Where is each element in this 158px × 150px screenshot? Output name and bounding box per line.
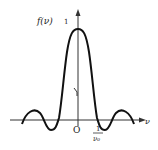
marker-glyph	[74, 88, 77, 96]
sinc-plot: f(ν) 1 ν O 1 ν₀	[0, 0, 158, 150]
tick-denominator: ν₀	[93, 135, 100, 143]
origin-label: O	[73, 125, 80, 135]
x-axis-label: ν	[145, 117, 150, 126]
y-axis-mark: 1	[64, 18, 68, 26]
y-axis-label: f(ν)	[36, 16, 53, 26]
tick-numerator: 1	[96, 125, 100, 133]
y-axis-arrow-icon	[76, 9, 81, 16]
